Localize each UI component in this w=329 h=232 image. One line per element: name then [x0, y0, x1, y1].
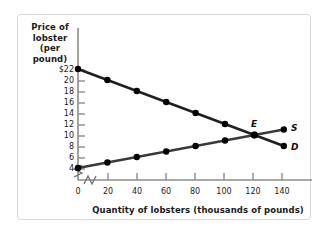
x-tick-label-120: 120 — [240, 187, 266, 196]
y-tick-label-20: 20 — [50, 76, 74, 85]
y-tick-label-14: 14 — [50, 109, 74, 118]
y-tick-label-8: 8 — [50, 142, 74, 151]
x-axis-break-icon — [84, 176, 96, 184]
y-tick-label-16: 16 — [50, 98, 74, 107]
x-tick-label-80: 80 — [182, 187, 208, 196]
equilibrium-label: E — [251, 119, 257, 129]
x-tick-label-40: 40 — [124, 187, 150, 196]
y-axis-ticks — [78, 70, 85, 169]
equilibrium-marker — [251, 131, 258, 138]
demand-curve-label: D — [291, 142, 298, 152]
x-axis-ticks — [108, 173, 282, 180]
x-tick-label-0: 0 — [65, 187, 91, 196]
y-tick-label-12: 12 — [50, 120, 74, 129]
figure-container: Price of lobster (per pound) Quantity of… — [0, 0, 329, 232]
supply-curve-label: S — [291, 123, 297, 133]
y-tick-label-10: 10 — [50, 131, 74, 140]
x-tick-label-20: 20 — [95, 187, 121, 196]
y-tick-label-4: 4 — [50, 164, 74, 173]
x-tick-label-60: 60 — [153, 187, 179, 196]
x-tick-label-140: 140 — [269, 187, 295, 196]
x-tick-label-100: 100 — [211, 187, 237, 196]
y-tick-label-22: $22 — [50, 65, 74, 74]
y-tick-label-6: 6 — [50, 153, 74, 162]
y-tick-label-18: 18 — [50, 87, 74, 96]
